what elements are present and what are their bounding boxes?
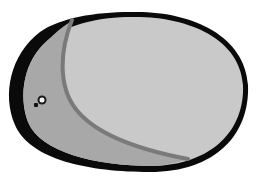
egg-illustration xyxy=(0,0,259,182)
